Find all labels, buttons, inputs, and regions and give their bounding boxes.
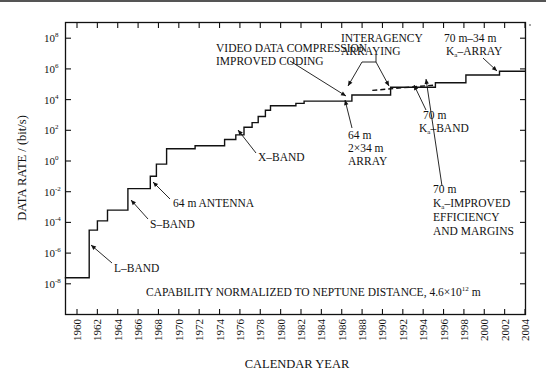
annotation-improved-1: 70 m [433, 183, 456, 195]
x-tick-label: 1986 [336, 319, 348, 342]
y-tick-label: 10-4 [44, 215, 61, 228]
y-tick-label: 10-2 [44, 185, 61, 198]
annotation-64m-array-2: 2×34 m [348, 142, 384, 154]
x-tick-label: 1978 [254, 319, 266, 342]
x-tick-label: 1970 [173, 319, 185, 342]
x-tick-label: 1964 [112, 319, 124, 342]
y-tick-label: 10-8 [44, 277, 61, 290]
annotation-leader-line [348, 62, 376, 86]
y-tick-label: 100 [44, 154, 59, 167]
x-tick-label: 1968 [152, 319, 164, 342]
data-rate-chart: 10810610410210010-210-410-610-8 19601962… [0, 0, 546, 384]
x-tick-label: 1966 [132, 319, 144, 342]
annotation-ka-array-2: Ka–ARRAY [446, 45, 503, 59]
annotation-ka-band-2: Ka–BAND [419, 122, 469, 136]
annotation-l-band: L–BAND [114, 262, 159, 274]
annotation-improved-2: Ka–IMPROVED [433, 197, 510, 211]
x-tick-label: 1992 [397, 319, 409, 341]
annotation-64m-array-3: ARRAY [348, 155, 388, 167]
x-axis-label: CALENDAR YEAR [245, 357, 350, 371]
y-tick-label: 106 [44, 62, 59, 75]
annotation-x-band: X–BAND [258, 151, 305, 163]
series-capability [65, 71, 525, 278]
data-series [65, 71, 525, 278]
x-tick-label: 1988 [356, 319, 368, 342]
x-tick-label: 2004 [519, 319, 531, 342]
annotation-capability-normalized: CAPABILITY NORMALIZED TO NEPTUNE DISTANC… [146, 285, 481, 299]
corner-dot [529, 24, 531, 26]
x-tick-label: 1980 [275, 319, 287, 342]
x-tick-label: 1974 [214, 319, 226, 342]
x-tick-label: 1998 [458, 319, 470, 342]
arrowhead-icon [425, 79, 429, 84]
x-tick-label: 2002 [499, 319, 511, 341]
annotation-ka-band-1: 70 m [423, 109, 446, 121]
annotation-64m-antenna: 64 m ANTENNA [173, 197, 255, 209]
y-tick-label: 104 [44, 93, 59, 106]
annotation-s-band: S–BAND [150, 218, 195, 230]
y-tick-label: 102 [44, 123, 59, 136]
annotation-improved-3: EFFICIENCY [433, 211, 500, 223]
x-tick-label: 1972 [193, 319, 205, 341]
x-tick-label: 1960 [71, 319, 83, 342]
x-tick-label: 1990 [376, 319, 388, 342]
annotation-ka-array-1: 70 m–34 m [444, 32, 496, 44]
annotation-interagency: INTERAGENCY [341, 32, 423, 44]
annotation-improved-coding: IMPROVED CODING [216, 55, 324, 67]
x-tick-label: 1996 [438, 319, 450, 342]
x-tick-label: 1976 [234, 319, 246, 342]
annotation-arraying: ARRAYING [341, 45, 401, 57]
y-tick-label: 10-6 [44, 246, 61, 259]
annotation-64m-array-1: 64 m [348, 129, 371, 141]
annotation-improved-4: AND MARGINS [433, 225, 514, 237]
x-tick-label: 1982 [295, 319, 307, 341]
x-tick-label: 1984 [315, 319, 327, 342]
y-axis-label: DATA RATE / (bit/s) [15, 115, 29, 221]
x-tick-label: 1962 [91, 319, 103, 341]
arrowhead-icon [341, 91, 346, 96]
x-tick-label: 2000 [478, 319, 490, 342]
y-tick-label: 108 [44, 31, 59, 44]
x-tick-label: 1994 [417, 319, 429, 342]
